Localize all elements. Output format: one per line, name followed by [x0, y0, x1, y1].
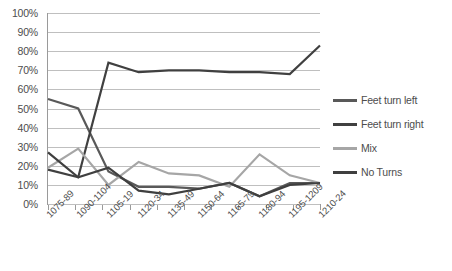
- y-tick-label: 20%: [18, 161, 38, 172]
- legend-label: Feet turn left: [361, 95, 417, 106]
- line-chart: 0%10%20%30%40%50%60%70%80%90%100% 1075-8…: [0, 0, 452, 271]
- series-line: [48, 99, 320, 196]
- y-tick-label: 30%: [18, 141, 38, 152]
- x-axis-labels: 1075-891090-11041105-191120-341135-49115…: [0, 210, 340, 271]
- series-line: [48, 45, 320, 177]
- legend-label: No Turns: [361, 167, 402, 178]
- legend-item[interactable]: Feet turn left: [333, 90, 451, 110]
- legend-swatch-icon: [333, 147, 357, 150]
- y-tick-label: 70%: [18, 65, 38, 76]
- y-tick-label: 100%: [12, 8, 38, 19]
- y-tick-label: 10%: [18, 180, 38, 191]
- legend-swatch-icon: [333, 99, 357, 102]
- legend-item[interactable]: Feet turn right: [333, 114, 451, 134]
- y-tick-label: 60%: [18, 84, 38, 95]
- y-tick-label: 90%: [18, 27, 38, 38]
- legend-label: Mix: [361, 143, 377, 154]
- series-line: [48, 149, 320, 187]
- legend-item[interactable]: Mix: [333, 138, 451, 158]
- y-tick-label: 80%: [18, 46, 38, 57]
- series-lines: [48, 13, 320, 204]
- y-tick-label: 0%: [23, 199, 38, 210]
- y-tick-label: 50%: [18, 103, 38, 114]
- legend-label: Feet turn right: [361, 119, 423, 130]
- y-tick-label: 40%: [18, 122, 38, 133]
- chart-legend: Feet turn leftFeet turn rightMixNo Turns: [333, 90, 451, 186]
- legend-swatch-icon: [333, 123, 357, 126]
- plot-area: [48, 13, 320, 204]
- legend-swatch-icon: [333, 171, 357, 174]
- legend-item[interactable]: No Turns: [333, 162, 451, 182]
